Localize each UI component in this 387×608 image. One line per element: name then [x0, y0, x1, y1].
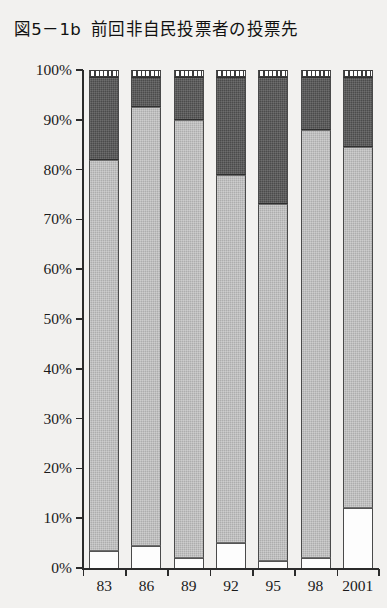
- chart-title-number: 図5－1b: [14, 20, 81, 39]
- bar-segment-base-white: [301, 558, 331, 568]
- bar-segment-top-hatched: [89, 70, 119, 77]
- x-axis-tick-label: 89: [168, 578, 210, 594]
- chart-title: 図5－1b前回非自民投票者の投票先: [14, 16, 299, 40]
- y-axis-tick-label: 80%: [44, 162, 72, 178]
- y-axis-tick-label: 90%: [44, 112, 72, 128]
- bar-segment-body-light-gray: [89, 160, 119, 551]
- bar-segment-middle-dark-gray: [89, 77, 119, 159]
- bar-segment-top-hatched: [216, 70, 246, 77]
- y-axis-tick: [76, 69, 83, 71]
- bar-segment-body-light-gray: [301, 130, 331, 558]
- bar-segment-body-light-gray: [258, 204, 288, 560]
- x-axis-tick-label: 95: [252, 578, 294, 594]
- x-axis-tick-label: 83: [83, 578, 125, 594]
- bar-segment-base-white: [258, 561, 288, 568]
- y-axis-tick: [76, 468, 83, 470]
- x-axis-tick: [168, 569, 169, 576]
- y-axis-tick-label: 10%: [44, 510, 72, 526]
- bar-segment-top-hatched: [301, 70, 331, 77]
- x-axis-tick-label: 2001: [337, 578, 379, 594]
- bar-segment-top-hatched: [343, 70, 373, 77]
- bar-segment-top-hatched: [258, 70, 288, 77]
- x-axis-tick: [83, 569, 84, 576]
- bar-segment-base-white: [343, 508, 373, 568]
- bar-segment-middle-dark-gray: [174, 77, 204, 119]
- x-axis-labels: 8386899295982001: [83, 578, 379, 604]
- y-axis-tick-label: 70%: [44, 211, 72, 227]
- x-axis-tick-label: 98: [294, 578, 336, 594]
- y-axis-tick: [76, 517, 83, 519]
- bar-segment-body-light-gray: [131, 107, 161, 545]
- y-axis-tick-label: 40%: [44, 361, 72, 377]
- x-axis-tick-label: 86: [125, 578, 167, 594]
- bar-segment-base-white: [131, 546, 161, 568]
- x-axis-tick: [210, 569, 211, 576]
- bar-segment-body-light-gray: [174, 120, 204, 558]
- chart-title-text: 前回非自民投票者の投票先: [91, 20, 299, 39]
- bar-segment-top-hatched: [174, 70, 204, 77]
- y-axis-tick-label: 30%: [44, 411, 72, 427]
- bar-segment-base-white: [89, 551, 119, 568]
- x-axis-tick: [378, 569, 379, 576]
- bar-segment-middle-dark-gray: [216, 77, 246, 174]
- x-axis-tick: [125, 569, 126, 576]
- x-axis-tick: [337, 569, 338, 576]
- bar-segment-body-light-gray: [343, 147, 373, 508]
- y-axis-tick: [76, 418, 83, 420]
- x-axis-tick: [252, 569, 253, 576]
- y-axis-tick: [76, 318, 83, 320]
- bar-segment-middle-dark-gray: [258, 77, 288, 204]
- y-axis-tick-label: 100%: [36, 62, 72, 78]
- bar-segment-base-white: [216, 543, 246, 568]
- y-axis-tick-label: 20%: [44, 460, 72, 476]
- bar-segment-middle-dark-gray: [301, 77, 331, 129]
- bar-segment-middle-dark-gray: [343, 77, 373, 147]
- y-axis-tick: [76, 119, 83, 121]
- y-axis-tick-label: 0%: [51, 560, 72, 576]
- y-axis-tick: [76, 219, 83, 221]
- bar-segment-base-white: [174, 558, 204, 568]
- y-axis-labels: 0%10%20%30%40%50%60%70%80%90%100%: [0, 70, 72, 568]
- plot-area: [83, 70, 379, 568]
- y-axis-tick-label: 50%: [44, 311, 72, 327]
- bar-segment-body-light-gray: [216, 175, 246, 544]
- x-axis-tick: [295, 569, 296, 576]
- y-axis-tick: [76, 368, 83, 370]
- bar-segment-middle-dark-gray: [131, 77, 161, 107]
- figure-container: 図5－1b前回非自民投票者の投票先 0%10%20%30%40%50%60%70…: [0, 0, 387, 608]
- y-axis-tick: [76, 169, 83, 171]
- y-axis-tick: [76, 268, 83, 270]
- y-axis-tick: [76, 567, 83, 569]
- x-axis-tick-label: 92: [210, 578, 252, 594]
- bar-segment-top-hatched: [131, 70, 161, 77]
- y-axis-tick-label: 60%: [44, 261, 72, 277]
